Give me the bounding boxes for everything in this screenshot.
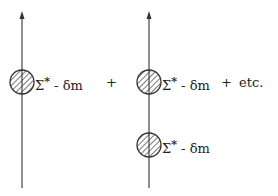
insertion-label: Σ* - δm	[162, 76, 210, 92]
etc-label: etc.	[239, 76, 263, 89]
plus-operator: +	[221, 76, 232, 89]
plus-operator: +	[106, 76, 117, 89]
self-energy-blob	[10, 70, 34, 94]
propagator-line-right	[147, 11, 152, 188]
insertion-label: Σ* - δm	[35, 76, 83, 92]
arrow-up-icon	[147, 11, 152, 19]
self-energy-blob	[137, 133, 161, 157]
propagator-line-left	[20, 11, 25, 188]
diagram-canvas	[0, 0, 278, 196]
self-energy-blob	[137, 70, 161, 94]
insertion-label: Σ* - δm	[162, 139, 210, 155]
arrow-up-icon	[20, 11, 25, 19]
